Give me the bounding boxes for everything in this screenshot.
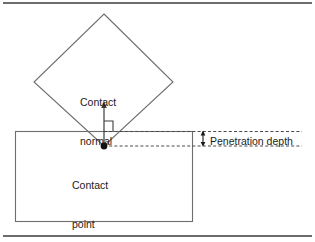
contact-point-label: Contact point	[72, 153, 108, 242]
contact-point-label-line-2: point	[72, 218, 108, 231]
contact-diagram-svg	[0, 0, 315, 242]
penetration-depth-label: Penetration depth	[210, 135, 293, 148]
contact-normal-label-line-2: normal	[80, 135, 116, 148]
contact-normal-label-line-1: Contact	[80, 96, 116, 109]
figure-root: Contact normal Contact point Penetration…	[0, 0, 315, 242]
contact-point-label-line-1: Contact	[72, 179, 108, 192]
